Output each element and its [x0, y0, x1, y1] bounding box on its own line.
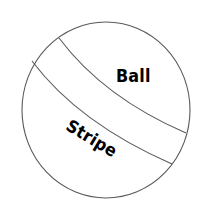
ball-label: Ball: [116, 68, 151, 85]
ball-circle-outline: [22, 22, 190, 198]
ball-diagram: Ball Stripe: [0, 0, 204, 220]
ball-illustration: [0, 0, 204, 220]
